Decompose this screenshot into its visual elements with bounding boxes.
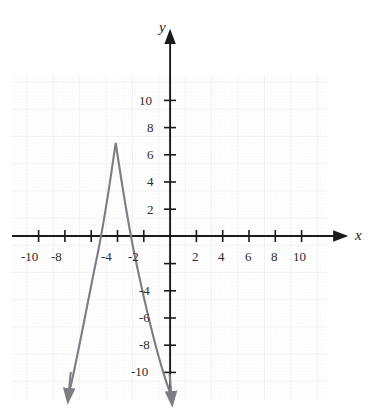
x-tick-label-neg4: -4 bbox=[101, 250, 112, 263]
x-axis-label: x bbox=[355, 228, 362, 243]
x-tick-label-neg2: -2 bbox=[128, 250, 139, 263]
y-axis-label: y bbox=[159, 20, 166, 35]
x-tick-label-10: 10 bbox=[293, 250, 306, 263]
x-tick-label-8: 8 bbox=[271, 250, 278, 263]
y-tick-label-2: 2 bbox=[147, 203, 154, 216]
y-tick-label-neg6: -6 bbox=[139, 311, 150, 324]
x-tick-label-4: 4 bbox=[218, 250, 225, 263]
y-tick-label-4: 4 bbox=[147, 175, 154, 188]
x-tick-label-6: 6 bbox=[245, 250, 252, 263]
x-tick-label-neg8: -8 bbox=[51, 250, 62, 263]
y-tick-label-neg8: -8 bbox=[139, 338, 150, 351]
y-tick-label-neg4: -4 bbox=[139, 284, 150, 297]
y-tick-label-10: 10 bbox=[139, 94, 152, 107]
x-tick-label-2: 2 bbox=[192, 250, 199, 263]
y-tick-label-neg10: -10 bbox=[131, 365, 148, 378]
x-tick-label-neg10: -10 bbox=[21, 250, 38, 263]
parabola-graph-figure: y x -10 -8 -4 -2 2 4 6 8 10 10 8 6 4 2 -… bbox=[0, 0, 370, 413]
plot-canvas bbox=[0, 0, 370, 413]
y-tick-label-8: 8 bbox=[147, 121, 154, 134]
y-tick-label-6: 6 bbox=[147, 148, 154, 161]
